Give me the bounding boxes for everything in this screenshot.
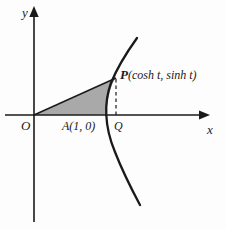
point-p-name: P: [120, 67, 128, 82]
arrow-up-icon: [29, 6, 38, 17]
point-a-label: A(1, 0): [62, 120, 95, 132]
point-p-coords: (cosh t, sinh t): [128, 68, 197, 82]
origin-label: O: [21, 119, 30, 132]
x-axis-label: x: [207, 123, 213, 136]
figure-canvas: [0, 0, 226, 229]
point-q-label: Q: [114, 120, 123, 132]
point-p-label: P(cosh t, sinh t): [120, 68, 197, 81]
arrow-right-icon: [199, 110, 210, 119]
hyperbola-curve: [106, 38, 140, 205]
y-axis-label: y: [22, 6, 28, 19]
hyperbolic-sector-figure: y x O A(1, 0) Q P(cosh t, sinh t): [0, 0, 226, 229]
